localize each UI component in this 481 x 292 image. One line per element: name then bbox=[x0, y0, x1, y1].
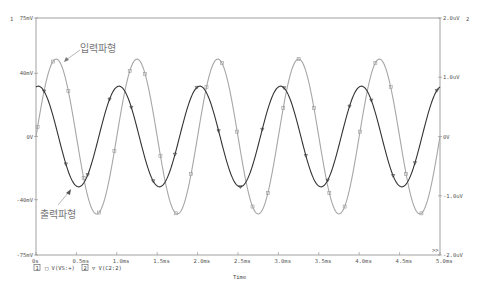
x-tick-label: 3.0ms bbox=[274, 258, 291, 264]
output-arrow-head-icon bbox=[66, 189, 71, 195]
input-annotation: 입력파형 bbox=[80, 42, 116, 54]
input-arrow bbox=[66, 50, 80, 60]
axis1-id: 1 bbox=[10, 16, 13, 22]
y-right-tick-label: -1.0uV bbox=[443, 193, 464, 199]
output-arrow bbox=[58, 192, 69, 205]
right-axis-ticks: 2.0uV1.0uV0V-1.0uV-2.0uV bbox=[438, 15, 464, 258]
input-markers bbox=[36, 58, 423, 215]
x-tick-label: 4.5ms bbox=[396, 258, 413, 264]
more-indicator[interactable]: >> bbox=[432, 247, 439, 253]
y-right-tick-label: 1.0uV bbox=[443, 74, 460, 80]
left-axis-ticks: 75mV40mV0V-40mV-75mV bbox=[16, 15, 38, 258]
input-arrow-head-icon bbox=[64, 57, 69, 62]
output-markers bbox=[42, 86, 438, 188]
y-left-tick-label: -75mV bbox=[16, 252, 33, 258]
x-axis-label: Time bbox=[233, 274, 246, 280]
output-annotation: 출력파형 bbox=[40, 209, 76, 220]
x-tick-label: 5.0ms bbox=[436, 258, 453, 264]
x-axis-ticks: 0s0.5ms1.0ms1.5ms2.0ms2.5ms3.0ms3.5ms4.0… bbox=[32, 252, 453, 264]
x-tick-label: 2.0ms bbox=[194, 258, 211, 264]
x-tick-label: 0.5ms bbox=[72, 258, 89, 264]
y-right-tick-label: -2.0uV bbox=[443, 252, 464, 258]
x-tick-label: 4.0ms bbox=[355, 258, 372, 264]
x-tick-label: 0s bbox=[32, 258, 39, 264]
legend2-label[interactable]: ▽ V(C2:2) bbox=[92, 265, 122, 271]
y-right-tick-label: 0V bbox=[443, 134, 450, 140]
axis2-id: 2 bbox=[466, 16, 469, 22]
legend1-label[interactable]: □ V(VS:+) bbox=[45, 265, 75, 271]
x-tick-label: 2.5ms bbox=[234, 258, 251, 264]
waveform-chart: 0s0.5ms1.0ms1.5ms2.0ms2.5ms3.0ms3.5ms4.0… bbox=[0, 0, 481, 292]
y-right-tick-label: 2.0uV bbox=[443, 15, 460, 21]
x-tick-label: 3.5ms bbox=[315, 258, 332, 264]
y-left-tick-label: 0V bbox=[26, 134, 33, 140]
input-waveform bbox=[36, 59, 440, 214]
y-left-tick-label: 75mV bbox=[20, 15, 34, 21]
legend1-num: 1 bbox=[36, 265, 39, 271]
x-tick-label: 1.5ms bbox=[153, 258, 170, 264]
x-tick-label: 1.0ms bbox=[113, 258, 130, 264]
y-left-tick-label: -40mV bbox=[16, 197, 33, 203]
legend2-num: 2 bbox=[84, 265, 87, 271]
y-left-tick-label: 40mV bbox=[20, 70, 34, 76]
